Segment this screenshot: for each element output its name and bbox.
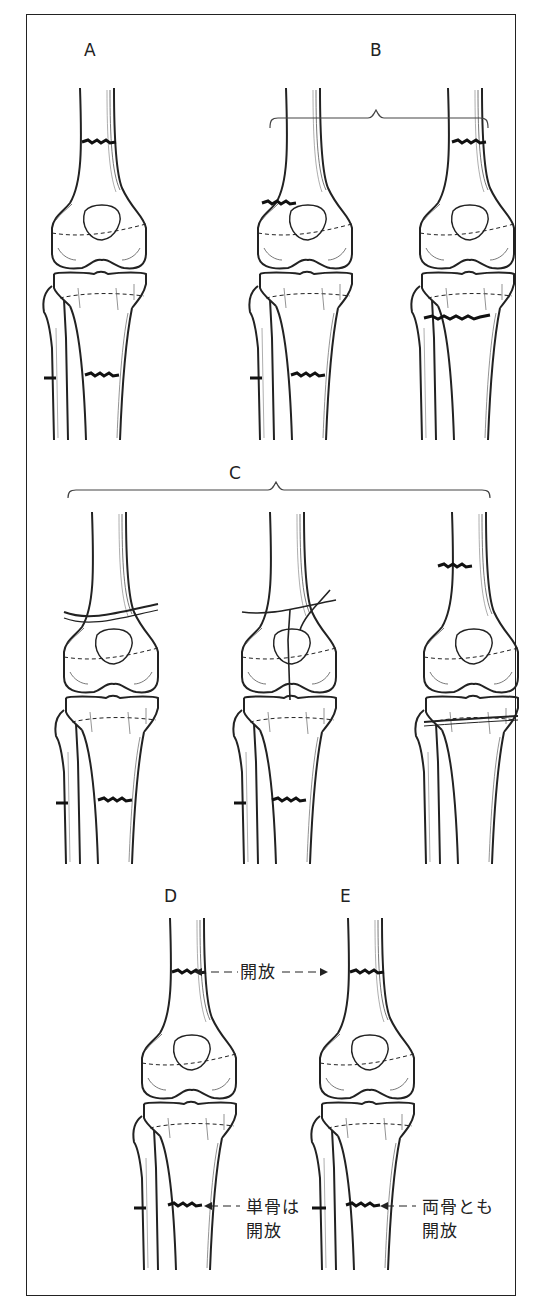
knee-b2 <box>411 88 514 440</box>
label-b: B <box>370 40 382 60</box>
knee-c3 <box>415 512 518 864</box>
annotation-both-bones-open-1: 両骨とも <box>422 1196 494 1218</box>
brace-c <box>68 482 490 498</box>
knee-c1 <box>55 512 158 864</box>
label-c: C <box>229 463 241 483</box>
annotation-single-bone-open-2: 開放 <box>246 1220 282 1242</box>
annotation-both-bones-open-2: 開放 <box>422 1220 458 1242</box>
label-a: A <box>84 40 96 60</box>
label-d: D <box>164 886 177 906</box>
knee-c2 <box>233 512 336 864</box>
knee-b1 <box>249 88 352 440</box>
brace-b <box>270 110 488 128</box>
annotation-single-bone-open-1: 単骨は <box>246 1196 300 1218</box>
annotation-open: 開放 <box>240 961 276 983</box>
label-e: E <box>340 886 351 906</box>
knee-diagram <box>0 0 543 1311</box>
